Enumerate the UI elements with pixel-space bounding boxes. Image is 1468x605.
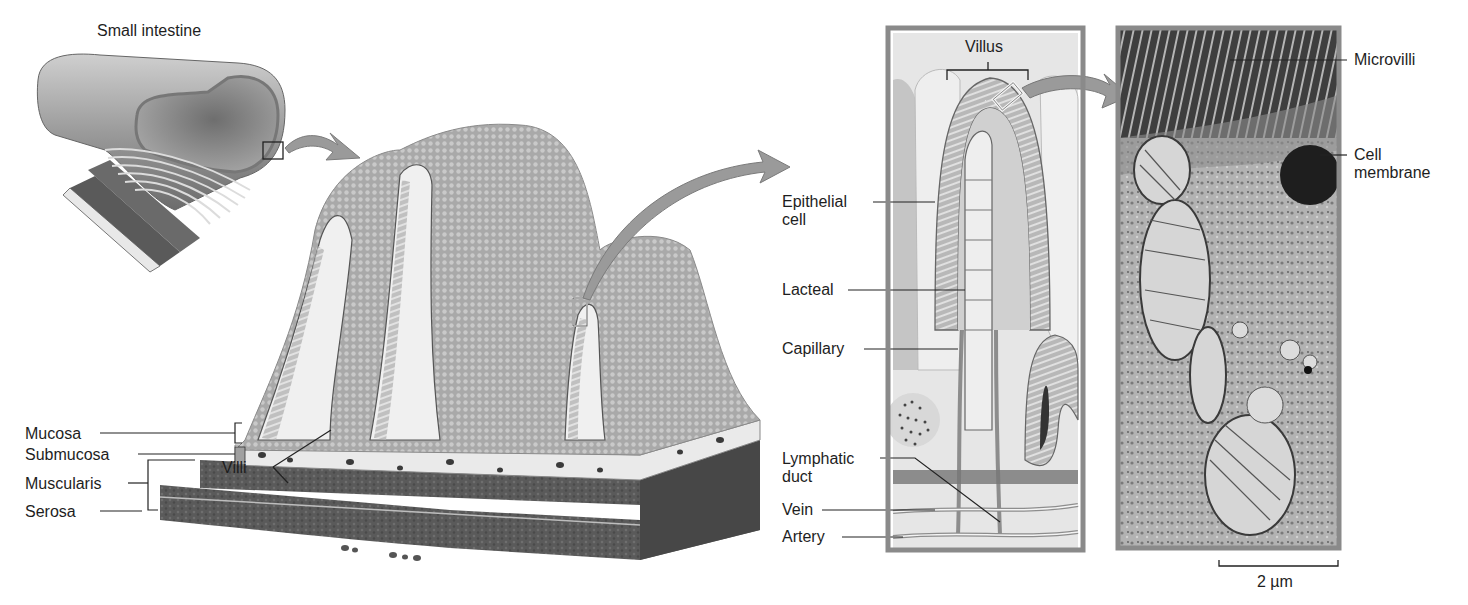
- label-capillary: Capillary: [782, 340, 844, 358]
- label-muscularis: Muscularis: [25, 475, 101, 493]
- label-submucosa: Submucosa: [25, 446, 110, 464]
- label-artery: Artery: [782, 528, 825, 546]
- label-lacteal: Lacteal: [782, 281, 834, 299]
- diagram-illustration: [0, 0, 1468, 605]
- label-small-intestine: Small intestine: [97, 22, 201, 40]
- label-microvilli: Microvilli: [1354, 51, 1415, 69]
- label-mucosa: Mucosa: [25, 425, 81, 443]
- label-lymphatic-duct-line2: duct: [782, 468, 854, 486]
- villus-detail-illustration: [886, 33, 1078, 550]
- label-scale-bar: 2 µm: [1257, 573, 1293, 591]
- label-villi: Villi: [222, 459, 247, 477]
- label-cell-membrane-line1: Cell: [1354, 146, 1430, 164]
- small-intestine-illustration: [37, 54, 285, 272]
- label-cell-membrane-line2: membrane: [1354, 164, 1430, 182]
- micrograph-illustration: [1118, 28, 1347, 566]
- label-vein: Vein: [782, 501, 813, 519]
- label-lymphatic-duct: Lymphatic duct: [782, 450, 854, 486]
- scale-bar: [1219, 560, 1338, 566]
- label-epithelial-cell-line2: cell: [782, 211, 847, 229]
- label-lymphatic-duct-line1: Lymphatic: [782, 450, 854, 468]
- label-epithelial-cell-line1: Epithelial: [782, 193, 847, 211]
- label-cell-membrane: Cell membrane: [1354, 146, 1430, 182]
- label-villus: Villus: [965, 38, 1003, 56]
- label-serosa: Serosa: [25, 503, 76, 521]
- zoom-arrow-1: [285, 133, 360, 160]
- label-epithelial-cell: Epithelial cell: [782, 193, 847, 229]
